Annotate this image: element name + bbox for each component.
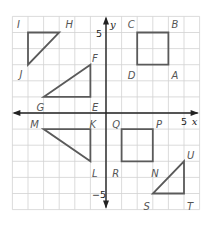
y-axis-arrow-down-icon	[103, 201, 109, 209]
point-label-J: J	[17, 69, 22, 80]
point-label-D: D	[128, 70, 136, 81]
point-label-B: B	[172, 19, 179, 30]
point-label-H: H	[65, 19, 73, 30]
point-label-E: E	[92, 102, 99, 113]
tick-label-y-5: 5	[96, 28, 102, 39]
y-axis-arrow-up-icon	[103, 16, 109, 24]
point-label-R: R	[112, 168, 119, 179]
point-label-P: P	[156, 119, 163, 130]
tick-label-y--5: −5	[92, 189, 106, 200]
triangle-MKL: MKL	[30, 119, 97, 179]
point-label-C: C	[128, 19, 135, 30]
point-label-K: K	[90, 119, 98, 130]
triangle-STU: STU	[143, 150, 195, 212]
coordinate-plane: x y 55−5 IHJGFECBADMKLQPNRSTU	[0, 0, 208, 226]
point-label-S: S	[143, 201, 150, 212]
point-label-G: G	[37, 102, 45, 113]
x-axis-label: x	[192, 116, 198, 127]
tick-label-x-5: 5	[181, 116, 187, 127]
triangle-GFE: GFE	[37, 53, 99, 113]
point-label-I: I	[17, 19, 20, 30]
triangle-IHJ: IHJ	[17, 19, 73, 80]
point-label-M: M	[30, 119, 39, 130]
point-label-U: U	[187, 150, 195, 161]
point-label-N: N	[151, 168, 159, 179]
point-label-A: A	[171, 70, 179, 81]
point-label-T: T	[187, 201, 194, 212]
x-axis-arrow-left-icon	[12, 110, 20, 116]
point-label-Q: Q	[112, 119, 120, 130]
point-label-F: F	[92, 53, 98, 64]
point-label-L: L	[92, 168, 98, 179]
y-axis-label: y	[109, 19, 116, 30]
